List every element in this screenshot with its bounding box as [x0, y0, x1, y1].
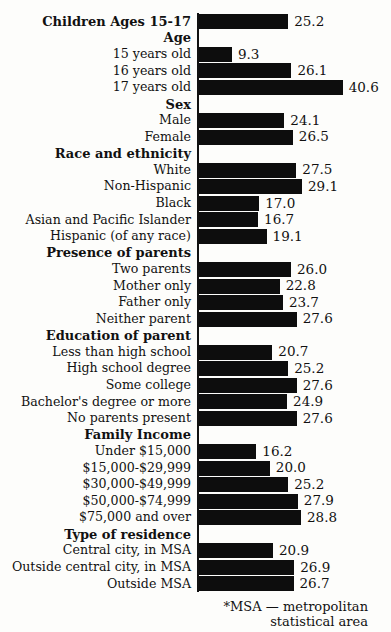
chart-row: Hispanic (of any race) 19.1 [0, 228, 391, 245]
bar-track: 16.2 [197, 443, 391, 460]
chart-row: Race and ethnicity [0, 145, 391, 162]
chart-row: Male 24.1 [0, 112, 391, 129]
category-label: Outside MSA [0, 578, 197, 591]
category-label: $15,000-$29,999 [0, 462, 197, 475]
value-label: 19.1 [273, 230, 303, 244]
bar-track: 17.0 [197, 195, 391, 212]
category-label: Male [0, 114, 197, 127]
bar-track: 24.9 [197, 394, 391, 411]
value-label: 20.0 [276, 461, 306, 475]
chart-row: Presence of parents [0, 245, 391, 262]
value-label: 22.8 [286, 279, 316, 293]
value-label: 26.0 [297, 263, 327, 277]
category-label: No parents present [0, 412, 197, 425]
category-label: $50,000-$74,999 [0, 495, 197, 508]
msa-footnote: *MSA — metropolitan statistical area [0, 599, 368, 630]
category-label: $30,000-$49,999 [0, 478, 197, 491]
value-label: 16.2 [262, 445, 292, 459]
value-label: 20.9 [279, 544, 309, 558]
value-label: 27.6 [303, 412, 333, 426]
bar-track: 40.6 [197, 79, 391, 96]
category-label: Education of parent [0, 329, 197, 342]
value-label: 23.7 [289, 296, 319, 310]
category-label: Some college [0, 379, 197, 392]
category-label: White [0, 164, 197, 177]
bar [199, 494, 298, 509]
category-label: Age [0, 31, 197, 44]
bar [199, 394, 287, 409]
category-label: Mother only [0, 280, 197, 293]
bar [199, 163, 296, 178]
chart-row: $50,000-$74,999 27.9 [0, 493, 391, 510]
category-label: Black [0, 197, 197, 210]
value-label: 24.9 [293, 395, 323, 409]
bar [199, 361, 288, 376]
category-label: High school degree [0, 362, 197, 375]
bar [199, 113, 284, 128]
bar [199, 461, 270, 476]
bar-track [197, 30, 391, 47]
chart-row: Two parents 26.0 [0, 261, 391, 278]
bar-track: 27.6 [197, 410, 391, 427]
bar-track: 26.1 [197, 63, 391, 80]
chart-row: High school degree 25.2 [0, 360, 391, 377]
value-label: 25.2 [294, 15, 324, 29]
category-label: Asian and Pacific Islander [0, 214, 197, 227]
value-label: 26.1 [297, 64, 327, 78]
bar [199, 477, 288, 492]
value-label: 40.6 [349, 81, 379, 95]
category-label: Sex [0, 98, 197, 111]
value-label: 17.0 [265, 197, 295, 211]
value-label: 16.7 [264, 213, 294, 227]
category-label: Type of residence [0, 528, 197, 541]
category-label: Hispanic (of any race) [0, 230, 197, 243]
bar-track: 23.7 [197, 294, 391, 311]
bar-track: 19.1 [197, 228, 391, 245]
chart-row: Outside central city, in MSA 26.9 [0, 559, 391, 576]
category-label: Central city, in MSA [0, 544, 197, 557]
bar [199, 295, 283, 310]
chart-row: Neither parent 27.6 [0, 311, 391, 328]
chart-row: Outside MSA 26.7 [0, 576, 391, 593]
value-label: 26.9 [300, 561, 330, 575]
bar-track: 24.1 [197, 112, 391, 129]
chart-row: Under $15,000 16.2 [0, 443, 391, 460]
bar-track [197, 327, 391, 344]
bar [199, 80, 343, 95]
bar [199, 411, 297, 426]
bar-track: 22.8 [197, 278, 391, 295]
chart-row: Children Ages 15-17 25.2 [0, 13, 391, 30]
category-label: $75,000 and over [0, 511, 197, 524]
chart-row: Father only 23.7 [0, 294, 391, 311]
value-label: 28.8 [307, 511, 337, 525]
bar-track: 16.7 [197, 212, 391, 229]
chart-row: Female 26.5 [0, 129, 391, 146]
chart-row: Less than high school 20.7 [0, 344, 391, 361]
bar [199, 560, 294, 575]
category-label: Father only [0, 296, 197, 309]
value-label: 26.5 [299, 130, 329, 144]
chart-row: No parents present 27.6 [0, 410, 391, 427]
bar-track: 26.7 [197, 576, 391, 593]
bar-track: 28.8 [197, 509, 391, 526]
bar [199, 444, 256, 459]
category-label: Under $15,000 [0, 445, 197, 458]
bar-track [197, 145, 391, 162]
value-label: 27.5 [302, 163, 332, 177]
category-label: 15 years old [0, 48, 197, 61]
value-label: 25.2 [294, 362, 324, 376]
value-label: 29.1 [308, 180, 338, 194]
chart-row: 15 years old 9.3 [0, 46, 391, 63]
footnote-line2: statistical area [0, 614, 368, 629]
category-label: Two parents [0, 263, 197, 276]
bar [199, 543, 273, 558]
chart-row: $30,000-$49,999 25.2 [0, 476, 391, 493]
bar [199, 179, 302, 194]
bar [199, 279, 280, 294]
bar [199, 510, 301, 525]
bar-track: 20.9 [197, 543, 391, 560]
chart-row: Asian and Pacific Islander 16.7 [0, 212, 391, 229]
category-label: Children Ages 15-17 [0, 15, 197, 28]
bar-track: 25.2 [197, 360, 391, 377]
chart-row: Type of residence [0, 526, 391, 543]
